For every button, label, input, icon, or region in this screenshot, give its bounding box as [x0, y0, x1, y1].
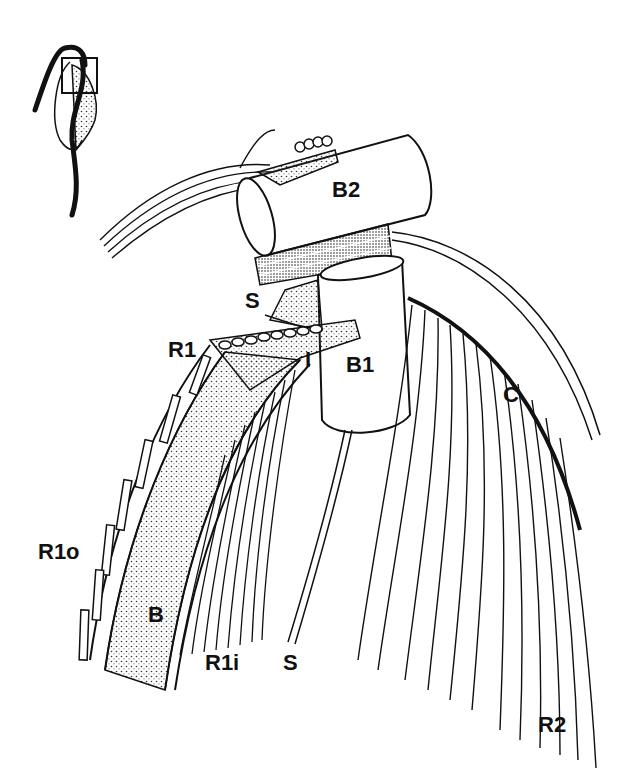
- label-b2: B2: [332, 177, 360, 202]
- label-s-top: S: [245, 288, 260, 313]
- label-r2: R2: [538, 712, 566, 737]
- inset-cell: [35, 47, 97, 215]
- striated-fiber-s-lower: [288, 430, 352, 644]
- label-r1i: R1i: [205, 650, 239, 675]
- label-b: B: [148, 602, 164, 627]
- label-i: I: [305, 347, 311, 372]
- label-r1o: R1o: [38, 539, 80, 564]
- striated-fiber-s: [265, 280, 322, 330]
- flagellar-apparatus-diagram: B2 S R1 I B1 C R1o B R1i S R2: [0, 0, 623, 781]
- label-b1: B1: [346, 352, 374, 377]
- label-s-bottom: S: [283, 650, 298, 675]
- label-r1: R1: [168, 337, 196, 362]
- label-c: C: [503, 382, 519, 407]
